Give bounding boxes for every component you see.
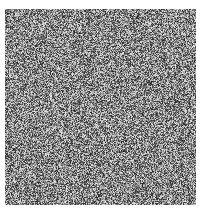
noise-image — [5, 9, 196, 205]
